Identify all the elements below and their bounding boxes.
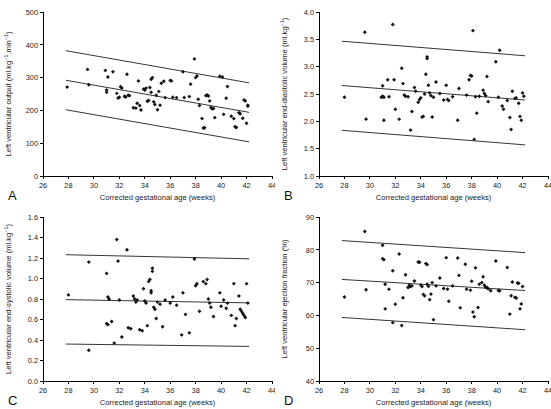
data-point <box>391 269 395 273</box>
data-point <box>219 304 223 308</box>
data-point <box>429 292 433 296</box>
data-point <box>115 238 119 242</box>
data-point <box>103 68 107 72</box>
y-tick-label: 300 <box>26 73 38 82</box>
y-tick-label: 80 <box>306 246 314 255</box>
data-point <box>149 90 153 94</box>
data-point <box>522 94 526 98</box>
data-point <box>148 85 152 89</box>
data-point <box>198 309 202 313</box>
data-point <box>381 84 385 88</box>
y-tick-label: 0 <box>34 172 38 181</box>
data-point <box>508 312 512 316</box>
data-point <box>400 66 404 70</box>
data-point <box>105 90 109 94</box>
y-tick-label: 0.8 <box>28 295 38 304</box>
y-tick-label: 1.0 <box>28 274 38 283</box>
data-point <box>458 306 462 310</box>
data-point <box>518 307 522 311</box>
x-tick-label: 36 <box>166 181 174 190</box>
data-point <box>463 262 467 266</box>
data-point <box>481 88 485 92</box>
data-point <box>187 95 191 99</box>
x-tick-label: 36 <box>442 181 450 190</box>
data-point <box>218 291 222 295</box>
data-point <box>474 266 478 270</box>
x-tick-label: 40 <box>217 386 225 395</box>
x-tick-label: 30 <box>90 181 98 190</box>
data-point <box>465 93 469 97</box>
data-point <box>106 75 110 79</box>
data-point <box>246 301 250 305</box>
x-tick-label: 28 <box>340 386 348 395</box>
data-point <box>434 284 438 288</box>
data-point <box>157 89 161 93</box>
data-point <box>184 312 188 316</box>
data-point <box>467 78 471 82</box>
panel-letter-b: B <box>284 188 293 203</box>
y-axis-title: Left ventricular output (ml.kg−1.min−1) <box>3 31 13 156</box>
chart-panel-a: 010020030040050026283032343638404244Corr… <box>0 0 275 204</box>
data-point <box>161 325 165 329</box>
scatter-plot-c: 0.00.20.40.60.81.01.21.41.62628303234363… <box>0 205 275 409</box>
x-axis-title: Corrected gestational age (weeks) <box>100 398 216 407</box>
data-point <box>430 115 434 119</box>
data-point <box>465 287 469 291</box>
data-point <box>212 314 216 318</box>
data-point <box>156 108 160 112</box>
y-axis-title: Left ventricular end-diastolic volume (m… <box>279 17 289 170</box>
data-point <box>508 116 512 120</box>
data-point <box>456 256 460 260</box>
data-point <box>387 287 391 291</box>
data-point <box>521 91 525 95</box>
x-tick-label: 42 <box>518 181 526 190</box>
y-tick-label: 90 <box>306 213 314 222</box>
data-point <box>175 303 179 307</box>
data-point <box>423 92 427 96</box>
data-point <box>111 70 115 74</box>
data-point <box>383 282 387 286</box>
data-point <box>245 282 249 286</box>
data-point <box>496 95 500 99</box>
data-point <box>342 295 346 299</box>
data-point <box>519 302 523 306</box>
data-point <box>401 82 405 86</box>
data-point <box>382 118 386 122</box>
data-point <box>494 259 498 263</box>
x-tick-label: 40 <box>493 386 501 395</box>
x-tick-label: 38 <box>468 181 476 190</box>
x-tick-label: 28 <box>64 181 72 190</box>
x-tick-label: 40 <box>217 181 225 190</box>
lower-limit-line <box>66 110 249 142</box>
x-tick-label: 36 <box>442 386 450 395</box>
data-point <box>232 117 236 121</box>
data-point <box>444 256 448 260</box>
data-point <box>442 287 446 291</box>
data-point <box>125 72 129 76</box>
data-point <box>393 107 397 111</box>
y-tick-label: 2.5 <box>304 90 314 99</box>
data-point <box>477 94 481 98</box>
y-tick-label: 0.4 <box>28 336 38 345</box>
data-point <box>87 260 91 264</box>
data-point <box>505 99 509 103</box>
data-point <box>510 280 514 284</box>
data-point <box>65 85 69 89</box>
x-tick-label: 30 <box>366 386 374 395</box>
data-point <box>430 281 434 285</box>
y-tick-label: 50 <box>306 344 314 353</box>
data-point <box>387 95 391 99</box>
y-tick-label: 0.2 <box>28 356 38 365</box>
data-point <box>517 101 521 105</box>
data-point <box>222 298 226 302</box>
x-axis-title: Corrected gestational age (weeks) <box>376 398 492 407</box>
lower-limit-line <box>66 344 249 346</box>
y-tick-label: 0.6 <box>28 315 38 324</box>
figure-panel-grid: 010020030040050026283032343638404244Corr… <box>0 0 551 409</box>
data-point <box>213 116 217 120</box>
x-tick-label: 44 <box>544 181 551 190</box>
data-point <box>363 30 367 34</box>
data-point <box>134 106 138 110</box>
x-tick-label: 38 <box>192 386 200 395</box>
data-point <box>471 310 475 314</box>
